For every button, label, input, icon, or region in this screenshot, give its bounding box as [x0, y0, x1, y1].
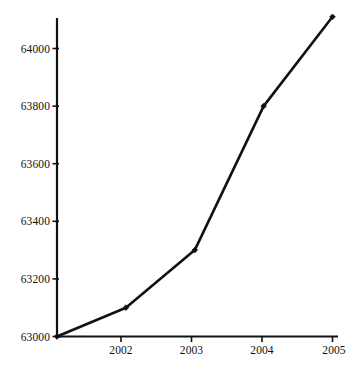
- y-tick-label-63400: 63400: [21, 215, 50, 227]
- chart-canvas: 63000 63200 63400 63600 63800 64000 2002…: [0, 0, 363, 370]
- y-tick-label-63800: 63800: [21, 100, 50, 112]
- x-tick-label-2005: 2005: [322, 344, 346, 356]
- y-tick-labels: 63000 63200 63400 63600 63800 64000: [21, 43, 50, 343]
- line-chart: 63000 63200 63400 63600 63800 64000 2002…: [0, 0, 363, 370]
- data-series-group: [54, 14, 335, 339]
- x-tick-label-2004: 2004: [250, 344, 274, 356]
- series-markers: [54, 14, 335, 339]
- x-tick-label-2003: 2003: [180, 344, 204, 356]
- y-tick-label-63600: 63600: [21, 158, 50, 170]
- y-tick-label-63000: 63000: [21, 331, 50, 343]
- series-line: [57, 17, 333, 337]
- x-tick-label-2002: 2002: [109, 344, 133, 356]
- y-tick-label-64000: 64000: [21, 43, 50, 55]
- x-tick-labels: 2002 2003 2004 2005: [109, 344, 346, 356]
- y-tick-label-63200: 63200: [21, 273, 50, 285]
